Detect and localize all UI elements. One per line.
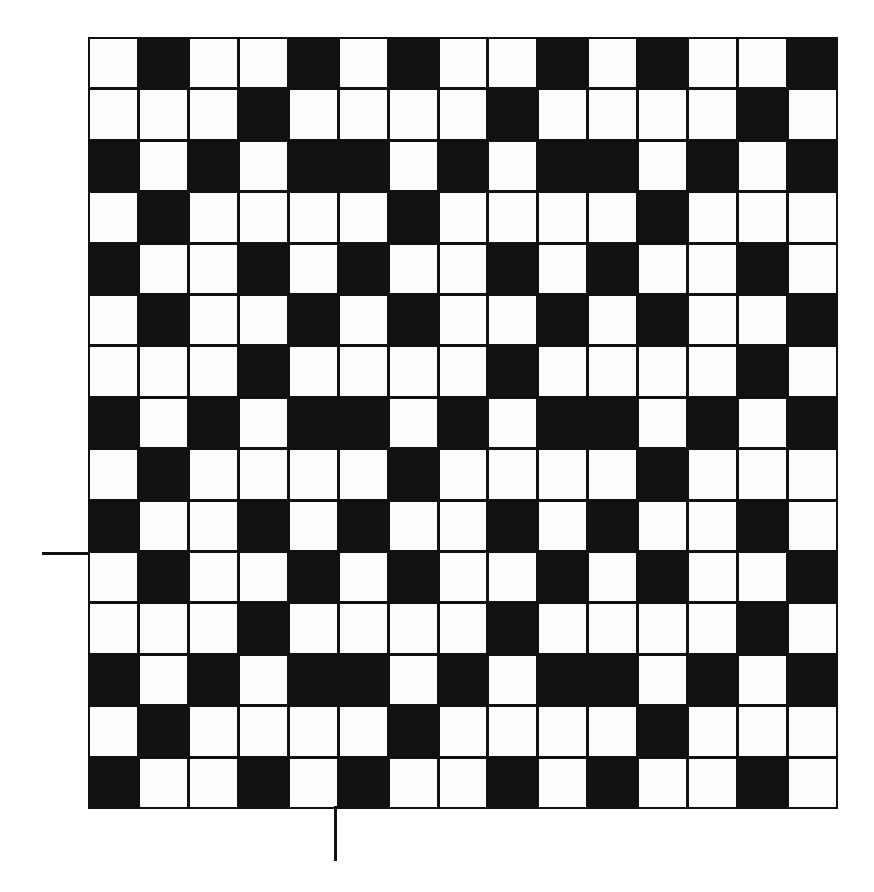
grid-cell <box>639 604 686 652</box>
grid-cell <box>290 604 337 652</box>
grid-cell <box>789 604 836 652</box>
grid-cell <box>589 502 636 550</box>
grid-cell <box>440 502 487 550</box>
grid-cell <box>240 656 287 704</box>
grid-cell <box>639 450 686 498</box>
grid-cell <box>440 553 487 601</box>
grid-cell <box>240 39 287 87</box>
grid-cell <box>689 553 736 601</box>
grid-cell <box>340 656 387 704</box>
grid-cell <box>340 142 387 190</box>
grid-cell <box>340 193 387 241</box>
grid-cell <box>489 759 536 807</box>
grid-cell <box>589 296 636 344</box>
grid-cell <box>739 90 786 138</box>
grid-cell <box>390 759 437 807</box>
grid-cell <box>539 450 586 498</box>
grid-cell <box>240 142 287 190</box>
grid-cell <box>689 450 736 498</box>
grid-cell <box>140 245 187 293</box>
grid-cell <box>489 245 536 293</box>
grid-cell <box>689 759 736 807</box>
grid-cell <box>340 347 387 395</box>
grid-cell <box>789 142 836 190</box>
grid-cell <box>489 707 536 755</box>
grid-cell <box>689 193 736 241</box>
grid-cell <box>739 759 786 807</box>
grid-cell <box>489 296 536 344</box>
grid-cell <box>390 39 437 87</box>
grid-cell <box>440 450 487 498</box>
grid-cell <box>489 399 536 447</box>
grid-cell <box>539 193 586 241</box>
grid-cell <box>190 142 237 190</box>
grid-cell <box>489 142 536 190</box>
grid-cell <box>390 656 437 704</box>
grid-cell <box>440 759 487 807</box>
grid-cell <box>190 296 237 344</box>
grid-cell <box>489 553 536 601</box>
grid-cell <box>390 296 437 344</box>
grid-cell <box>140 296 187 344</box>
grid-cell <box>739 142 786 190</box>
grid-cell <box>390 502 437 550</box>
grid-cell <box>739 296 786 344</box>
grid-cell <box>290 90 337 138</box>
grid-cell <box>240 296 287 344</box>
grid-cell <box>390 193 437 241</box>
grid-cell <box>589 193 636 241</box>
grid-cell <box>739 553 786 601</box>
grid-cell <box>789 193 836 241</box>
grid-cell <box>90 553 137 601</box>
grid-cell <box>489 604 536 652</box>
grid-cell <box>589 245 636 293</box>
grid-cell <box>290 707 337 755</box>
grid-cell <box>340 553 387 601</box>
grid-cell <box>90 707 137 755</box>
grid-cell <box>340 759 387 807</box>
grid-cell <box>290 39 337 87</box>
grid-cell <box>440 707 487 755</box>
grid-cell <box>689 604 736 652</box>
grid-cell <box>290 296 337 344</box>
grid-cell <box>589 347 636 395</box>
grid-cell <box>240 759 287 807</box>
grid-cell <box>240 450 287 498</box>
grid-cell <box>440 90 487 138</box>
grid-cell <box>240 502 287 550</box>
grid-cell <box>589 90 636 138</box>
grid-cell <box>789 450 836 498</box>
grid-cell <box>390 347 437 395</box>
grid-cell <box>539 399 586 447</box>
grid-cell <box>90 502 137 550</box>
grid-cell <box>140 759 187 807</box>
grid-cell <box>489 90 536 138</box>
grid-cell <box>190 399 237 447</box>
grid-cell <box>290 193 337 241</box>
grid-cell <box>190 193 237 241</box>
grid-cell <box>639 656 686 704</box>
grid-cell <box>589 707 636 755</box>
grid-cell <box>539 90 586 138</box>
grid-cell <box>739 193 786 241</box>
grid-cell <box>140 39 187 87</box>
grid-cell <box>539 707 586 755</box>
grid-cell <box>440 399 487 447</box>
grid-cell <box>440 193 487 241</box>
grid-cell <box>340 502 387 550</box>
grid-cell <box>290 656 337 704</box>
grid-cell <box>489 502 536 550</box>
grid-cell <box>440 245 487 293</box>
grid-cell <box>390 142 437 190</box>
grid-cell <box>589 656 636 704</box>
grid-cell <box>90 296 137 344</box>
grid-cell <box>639 553 686 601</box>
grid-cell <box>240 245 287 293</box>
grid-cell <box>739 245 786 293</box>
grid-cell <box>190 450 237 498</box>
grid-cell <box>390 707 437 755</box>
grid-cell <box>539 604 586 652</box>
grid-cell <box>340 39 387 87</box>
grid-cell <box>639 193 686 241</box>
grid-cell <box>440 604 487 652</box>
